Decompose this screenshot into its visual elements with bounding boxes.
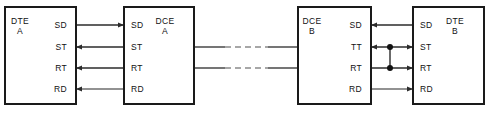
device-box-dte-a[interactable]: DTEASDSTRTRD (5, 7, 76, 104)
box-title-dte-b: DTE (446, 16, 464, 26)
box-subtitle-dce-a: A (162, 26, 168, 36)
signal-label-dce-b-rt: RT (350, 63, 362, 73)
signal-label-dte-a-sd: SD (55, 20, 67, 30)
device-box-dce-a[interactable]: DCEASDSTRTRD (124, 7, 194, 104)
signal-label-dte-a-rd: RD (54, 84, 67, 94)
box-subtitle-dce-b: B (309, 26, 315, 36)
box-title-dce-b: DCE (303, 16, 322, 26)
box-subtitle-dte-a: A (17, 26, 23, 36)
signal-label-dte-b-sd: SD (420, 20, 432, 30)
signal-label-dte-b-st: ST (420, 42, 431, 52)
box-title-dce-a: DCE (156, 16, 175, 26)
junction-dot-tt-tap (387, 44, 393, 50)
interconnection-diagram: DTEASDSTRTRDDCEASDSTRTRDDCEBSDTTRTRDDTEB… (0, 0, 489, 118)
junction-layer (387, 44, 393, 71)
device-boxes-layer: DTEASDSTRTRDDCEASDSTRTRDDCEBSDTTRTRDDTEB… (5, 7, 484, 104)
signal-label-dce-b-sd: SD (350, 20, 362, 30)
signal-label-dte-b-rt: RT (420, 63, 432, 73)
device-box-dte-b[interactable]: DTEBSDSTRTRD (413, 7, 484, 104)
signal-label-dce-a-rd: RD (131, 84, 144, 94)
trunk-group (194, 47, 298, 68)
junction-dot-rt-tap (387, 65, 393, 71)
signal-label-dce-b-tt: TT (351, 42, 362, 52)
signal-label-dce-a-sd: SD (131, 20, 143, 30)
device-box-dce-b[interactable]: DCEBSDTTRTRD (298, 7, 371, 104)
diagram-canvas: DTEASDSTRTRDDCEASDSTRTRDDCEBSDTTRTRDDTEB… (0, 0, 489, 118)
signal-label-dte-a-st: ST (56, 42, 67, 52)
signal-label-dce-a-rt: RT (131, 63, 143, 73)
box-title-dte-a: DTE (11, 16, 29, 26)
box-subtitle-dte-b: B (452, 26, 458, 36)
signal-label-dce-a-st: ST (131, 42, 142, 52)
signal-label-dce-b-rd: RD (349, 84, 362, 94)
signal-label-dte-a-rt: RT (55, 63, 67, 73)
signal-label-dte-b-rd: RD (420, 84, 433, 94)
